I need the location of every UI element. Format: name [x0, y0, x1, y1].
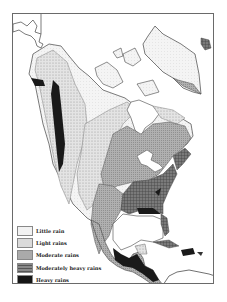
legend-item-moderate-rains: Moderate rains — [17, 249, 101, 261]
swatch-moderately-heavy-rains — [17, 263, 33, 273]
cuba — [153, 240, 179, 248]
swatch-heavy-rains — [17, 275, 33, 284]
legend-label: Light rains — [36, 240, 67, 246]
swatch-light-rains — [17, 238, 33, 248]
hispaniola — [181, 248, 195, 256]
legend-label: Heavy rains — [36, 277, 69, 283]
south-america-coast — [163, 270, 214, 284]
map-frame: Little rain Light rains Moderate rains M… — [12, 13, 214, 284]
gulf-of-mexico — [113, 214, 163, 250]
legend-label: Little rain — [36, 228, 64, 234]
swatch-little-rain — [17, 226, 33, 236]
legend-label: Moderate rains — [36, 252, 79, 258]
legend-label: Moderately heavy rains — [36, 265, 101, 271]
legend-item-heavy-rains: Heavy rains — [17, 274, 101, 284]
legend-item-light-rains: Light rains — [17, 237, 101, 249]
legend-item-little-rain: Little rain — [17, 225, 101, 237]
siberia-coast — [13, 20, 43, 48]
swatch-moderate-rains — [17, 250, 33, 260]
legend: Little rain Light rains Moderate rains M… — [17, 225, 101, 284]
legend-item-moderately-heavy-rains: Moderately heavy rains — [17, 262, 101, 274]
arctic-islands — [95, 62, 123, 88]
